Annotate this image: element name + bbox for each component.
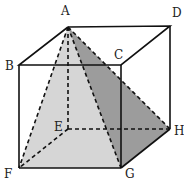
- label-h: H: [174, 124, 184, 138]
- label-f: F: [4, 167, 12, 178]
- label-d: D: [172, 6, 182, 20]
- label-g: G: [125, 167, 135, 178]
- cube-pyramid-diagram: A B C D E F G H: [0, 0, 184, 178]
- label-c: C: [114, 48, 123, 62]
- label-b: B: [5, 59, 14, 73]
- label-a: A: [60, 4, 70, 18]
- label-e: E: [54, 120, 63, 134]
